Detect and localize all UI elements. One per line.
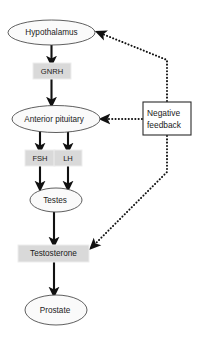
negative-feedback-label-line2: feedback [147, 120, 182, 130]
node-anterior-pituitary[interactable]: Anterior pituitary [12, 106, 100, 133]
testes-label: Testes [43, 196, 67, 205]
hpg-axis-diagram: Hypothalamus GNRH Anterior pituitary FSH… [0, 0, 203, 341]
lh-label: LH [63, 154, 73, 163]
dotted-feedback-edges-group [93, 33, 167, 246]
testosterone-label: Testosterone [30, 249, 77, 258]
anterior-pituitary-label: Anterior pituitary [24, 115, 85, 124]
edge-feedback-to-hypothalamus [100, 33, 167, 101]
edge-testosterone-to-feedback [93, 136, 167, 246]
node-testosterone[interactable]: Testosterone [18, 245, 89, 262]
node-negative-feedback[interactable]: Negative feedback [143, 102, 191, 135]
node-hypothalamus[interactable]: Hypothalamus [8, 20, 95, 45]
fsh-label: FSH [32, 154, 47, 163]
node-fsh[interactable]: FSH [25, 150, 55, 166]
gnrh-label: GNRH [41, 67, 63, 76]
node-testes[interactable]: Testes [30, 188, 82, 212]
node-prostate[interactable]: Prostate [25, 295, 87, 325]
node-gnrh[interactable]: GNRH [33, 63, 71, 79]
hypothalamus-label: Hypothalamus [25, 28, 77, 37]
diagram-canvas: Hypothalamus GNRH Anterior pituitary FSH… [0, 0, 203, 341]
node-lh[interactable]: LH [54, 150, 82, 166]
prostate-label: Prostate [40, 306, 71, 315]
negative-feedback-label-line1: Negative [147, 108, 180, 118]
